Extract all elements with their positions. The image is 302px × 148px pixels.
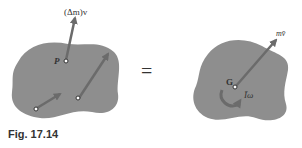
label-i-omega: Īω xyxy=(243,90,253,100)
figure-caption: Fig. 17.14 xyxy=(8,128,58,140)
label-mv-bar: mv̄ xyxy=(276,29,286,38)
momentum-diagram: (Δm)v P = mv̄ G Īω xyxy=(0,0,302,148)
point-p xyxy=(64,59,68,63)
left-rigid-body xyxy=(12,18,119,118)
center-of-mass-g xyxy=(233,85,237,89)
equals-sign: = xyxy=(141,60,152,82)
label-delta-m-v: (Δm)v xyxy=(64,7,88,17)
label-point-p: P xyxy=(54,56,60,66)
label-g: G xyxy=(226,77,233,87)
right-rigid-body xyxy=(193,40,288,120)
